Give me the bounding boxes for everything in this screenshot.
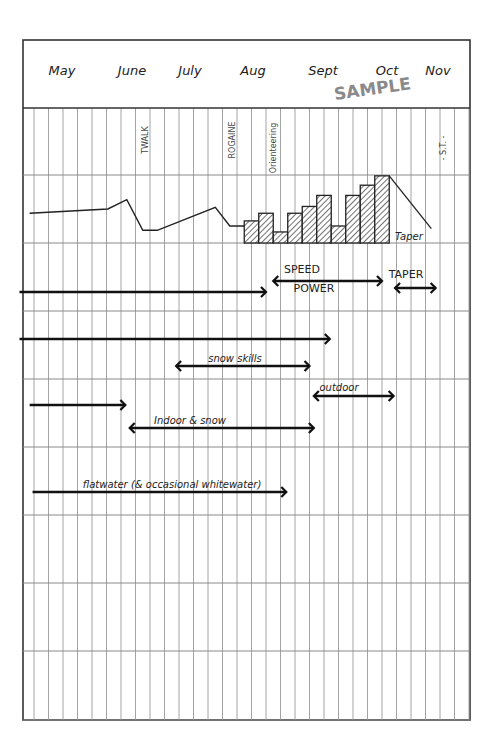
month-label: Nov [425,63,451,78]
arrow-label: flatwater (& occasional whitewater) [83,479,262,490]
volume-bar [360,185,375,243]
phase-arrow [20,334,330,344]
volume-bar [331,226,346,243]
chart-frame [23,40,470,720]
event-label: TWALK [141,125,150,154]
phase-arrow: SPEEDPOWER [273,263,382,295]
phase-arrow [20,287,267,297]
month-label: July [175,63,202,78]
arrow-label: outdoor [319,382,359,393]
arrow-label-top: SPEED [284,263,320,276]
event-label: - S.T. - [439,135,448,160]
arrow-label: snow skills [208,353,262,364]
grid [23,40,470,720]
phase-arrow: Indoor & snow [130,415,314,433]
volume-bar [375,176,390,243]
volume-bar [244,221,259,243]
taper-line [389,176,431,229]
volume-bar [302,206,317,243]
month-label: Aug [239,63,265,78]
volume-bar [346,195,361,243]
phase-arrow: flatwater (& occasional whitewater) [33,479,287,497]
arrow-label-bottom: POWER [294,282,335,295]
phase-arrow: TAPER [388,268,436,293]
month-label: May [49,63,76,78]
arrow-label: Indoor & snow [154,415,227,426]
taper-label: Taper [395,231,424,242]
arrow-label: TAPER [388,268,424,281]
volume-chart: Taper [30,176,432,243]
event-label: Orienteering [269,123,278,173]
month-label: June [115,63,146,78]
phase-arrows: SPEEDPOWERTAPERsnow skillsoutdoorIndoor … [20,263,436,497]
volume-bar [259,213,274,243]
sample-watermark: SAMPLE [333,73,412,104]
training-plan-chart: MayJuneJulyAugSeptOctNov SAMPLE TWALKROG… [0,0,493,755]
volume-bar [317,195,332,243]
volume-line [30,200,245,231]
phase-arrow: snow skills [176,353,309,371]
event-label: ROGAINE [228,122,237,159]
volume-bar [288,213,303,243]
volume-bar [273,232,288,243]
event-labels: TWALKROGAINEOrienteering- S.T. - [141,122,448,174]
month-label: Sept [308,63,339,78]
